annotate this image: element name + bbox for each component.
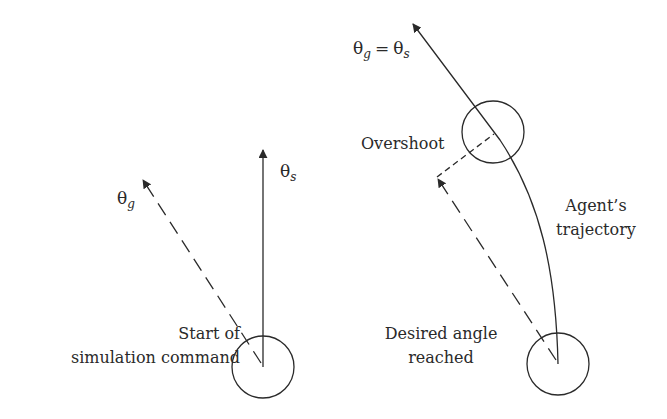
trajectory-label-line-1: Agent’s (564, 196, 626, 215)
overshoot-label: Overshoot (361, 134, 445, 153)
desired-label-line-1: Desired angle (385, 324, 498, 343)
theta-equation-label: θg=θs (353, 38, 410, 61)
overshoot-offset-connector (437, 134, 494, 177)
start-caption-line-1: Start of (178, 324, 241, 343)
trajectory-label-line-2: trajectory (556, 220, 636, 239)
theta-g-label: θg (117, 188, 135, 211)
start-caption-line-2: simulation command (71, 348, 240, 367)
right-panel: θg=θs Overshoot Agent’s trajectory Desir… (353, 24, 636, 395)
diagram-canvas: θs θg Start of simulation command θg=θs … (0, 0, 667, 419)
overshoot-circle (462, 101, 524, 163)
desired-label-line-2: reached (408, 348, 474, 367)
theta-s-label: θs (280, 161, 296, 184)
agent-trajectory-curve (413, 24, 558, 364)
left-panel: θs θg Start of simulation command (71, 150, 296, 398)
